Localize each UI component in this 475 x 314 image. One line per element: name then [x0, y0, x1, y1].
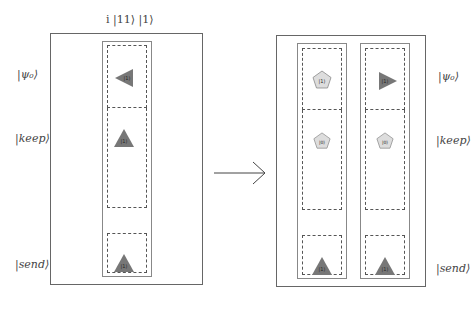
- svg-text:|1⟩: |1⟩: [121, 263, 128, 270]
- after-col2-psi0-triangle-right-icon: |1⟩: [377, 70, 399, 92]
- svg-text:|1⟩: |1⟩: [121, 138, 128, 145]
- after-col2-send-triangle-up-icon: |1⟩: [374, 256, 396, 276]
- svg-text:|1⟩: |1⟩: [319, 266, 326, 273]
- row-label-keep-left: |keep⟩: [15, 132, 50, 145]
- row-label-send-right: |send⟩: [436, 262, 470, 275]
- row-label-psi0-left: |ψ₀⟩: [17, 68, 38, 81]
- after-col1-keep-pentagon-icon: |0⟩: [313, 132, 331, 150]
- row-label-keep-right: |keep⟩: [436, 134, 471, 147]
- row-label-psi0-right: |ψ₀⟩: [438, 70, 459, 83]
- before-cell-keep: [107, 108, 147, 208]
- before-psi0-triangle-left-icon: |1⟩: [113, 67, 135, 89]
- svg-text:|1⟩: |1⟩: [124, 75, 131, 82]
- after-col2-cell-keep: [365, 110, 405, 210]
- svg-text:|1⟩: |1⟩: [382, 78, 389, 85]
- after-col1-cell-keep: [302, 110, 342, 210]
- before-send-triangle-up-icon: |1⟩: [113, 253, 135, 273]
- after-col1-send-triangle-up-icon: |1⟩: [311, 256, 333, 276]
- state-title: i |11⟩ |1⟩: [106, 13, 154, 26]
- after-col2-keep-pentagon-icon: |0⟩: [376, 132, 394, 150]
- svg-text:|1⟩: |1⟩: [382, 266, 389, 273]
- svg-text:|1⟩: |1⟩: [319, 78, 326, 85]
- transition-arrow-icon: [213, 158, 267, 188]
- row-label-send-left: |send⟩: [15, 258, 49, 271]
- before-keep-triangle-up-icon: |1⟩: [113, 128, 135, 148]
- state-title-text: i |11⟩ |1⟩: [106, 13, 154, 26]
- after-col1-psi0-pentagon-icon: |1⟩: [312, 70, 332, 90]
